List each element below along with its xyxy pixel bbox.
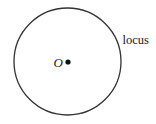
locus-label: locus (123, 33, 150, 47)
center-label: O (54, 55, 64, 70)
center-point (65, 59, 70, 64)
locus-diagram: O locus (0, 0, 156, 124)
